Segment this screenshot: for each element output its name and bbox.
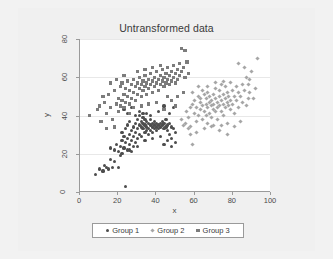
data-point [176, 68, 179, 71]
x-tick-label-100: 100 [264, 196, 277, 205]
data-point [109, 158, 112, 161]
legend-item-2[interactable]: Group 2 [151, 226, 184, 235]
data-point [109, 146, 112, 149]
data-point [149, 83, 152, 86]
data-point [128, 89, 131, 92]
data-point [145, 81, 148, 84]
data-point [130, 83, 133, 86]
data-point [130, 97, 133, 100]
data-point [194, 119, 198, 123]
data-point [122, 135, 125, 138]
data-point [107, 93, 110, 96]
data-point [170, 99, 173, 102]
data-point [183, 49, 186, 52]
data-point [153, 76, 156, 79]
data-point [213, 110, 217, 114]
data-point [161, 68, 164, 71]
data-point [174, 72, 177, 75]
data-point [122, 93, 125, 96]
data-point [134, 131, 137, 134]
data-point [140, 83, 143, 86]
data-point [109, 81, 112, 84]
x-tick-0 [79, 192, 80, 195]
chart-title: Untransformed data [18, 22, 315, 34]
data-point [159, 135, 162, 138]
data-point [168, 133, 171, 136]
data-point [162, 104, 165, 107]
data-point [149, 114, 152, 117]
data-point [140, 104, 143, 107]
data-point [176, 78, 179, 81]
data-point [149, 118, 152, 121]
data-point [191, 142, 195, 146]
y-tick-label-60: 60 [60, 73, 69, 81]
data-point [128, 143, 131, 146]
legend-item-3[interactable]: Group 3 [196, 226, 229, 235]
data-point [236, 62, 240, 66]
data-point [213, 81, 217, 85]
data-point [157, 110, 160, 113]
data-point [138, 114, 141, 117]
data-point [140, 135, 143, 138]
data-point [147, 78, 150, 81]
data-point [122, 74, 125, 77]
data-point [132, 91, 135, 94]
x-tick-20 [117, 192, 118, 195]
data-point [134, 122, 137, 125]
data-point [244, 104, 248, 108]
x-tick-label-20: 20 [113, 196, 121, 205]
data-point [221, 79, 225, 83]
data-point [180, 70, 183, 73]
data-point [120, 131, 123, 134]
data-point [164, 81, 167, 84]
data-point [229, 81, 233, 85]
data-point [128, 120, 131, 123]
data-point [217, 89, 221, 93]
data-point [180, 47, 183, 50]
y-tick-20 [76, 154, 79, 155]
data-point [194, 131, 198, 135]
data-point [143, 85, 146, 88]
data-point [119, 85, 122, 88]
data-point [96, 108, 99, 111]
data-point [143, 139, 146, 142]
data-point [155, 101, 158, 104]
data-point [134, 114, 137, 117]
data-point [162, 108, 165, 111]
data-point [136, 118, 139, 121]
data-point [111, 166, 114, 169]
data-point [140, 95, 143, 98]
data-point [170, 79, 173, 82]
data-point [143, 74, 146, 77]
plot-area [79, 39, 270, 192]
data-point [136, 137, 139, 140]
data-point [159, 74, 162, 77]
data-point [122, 106, 125, 109]
data-point [136, 145, 139, 148]
data-point [196, 113, 200, 117]
data-point [174, 141, 177, 144]
data-point [212, 123, 216, 127]
data-point [240, 100, 244, 104]
legend-item-1[interactable]: Group 1 [106, 226, 139, 235]
data-point [236, 106, 240, 110]
data-point [132, 106, 135, 109]
data-point [234, 98, 238, 102]
data-point [166, 139, 169, 142]
y-tick-40 [76, 116, 79, 117]
data-point [159, 83, 162, 86]
data-point [145, 93, 148, 96]
x-tick-60 [194, 192, 195, 195]
data-point [98, 104, 101, 107]
data-point [170, 137, 173, 140]
data-point [132, 135, 135, 138]
data-point [120, 139, 123, 142]
data-point [231, 89, 235, 93]
legend-item-label: Group 2 [157, 226, 184, 235]
data-point [189, 133, 193, 137]
data-point [115, 78, 118, 81]
data-point [128, 112, 131, 115]
data-point [126, 137, 129, 140]
data-point [183, 76, 186, 79]
data-point [130, 129, 133, 132]
